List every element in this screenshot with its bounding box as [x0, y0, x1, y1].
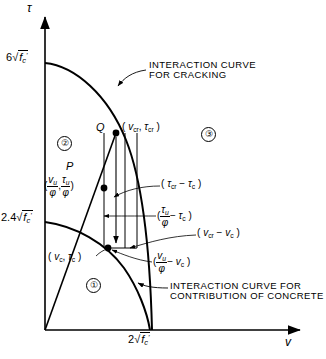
concrete-contribution-curve	[45, 222, 150, 330]
leader-dim-v-cr	[130, 235, 196, 248]
region-3-label: ③	[201, 127, 216, 142]
loading-ray	[45, 133, 116, 330]
point-q-label: Q	[96, 122, 105, 134]
dim-label-v-cr-minus-v-c: ( vcr − vc )	[197, 228, 240, 239]
frac-tauu-phi: τu φ	[160, 204, 170, 229]
point-c-coord: ( vc, τc )	[48, 252, 81, 263]
y-tick-mid-coeff: 2.4	[1, 211, 16, 223]
dim-label-tau-cr-minus-tau-c: ( τcr − τc )	[161, 179, 201, 190]
point-p-label: P	[66, 161, 73, 173]
y-tick-mid-radicand: fc'	[22, 210, 32, 223]
point-q-marker	[113, 130, 120, 137]
leader-cracking	[118, 70, 146, 86]
caption-cracking: INTERACTION CURVE FOR CRACKING	[149, 60, 256, 80]
x-tick: 2√fc'	[128, 334, 150, 347]
x-axis-label: v	[285, 336, 291, 349]
y-tick-top-radicand: fc'	[18, 50, 28, 63]
point-p-marker	[101, 185, 108, 192]
x-tick-radicand: fc'	[140, 332, 150, 345]
interaction-diagram: τ v 6√fc' 2.4√fc' 2√fc' INTERACTION CURV…	[0, 0, 326, 359]
caption-concrete-line2: CONTRIBUTION OF CONCRETE	[170, 291, 324, 301]
caption-concrete: INTERACTION CURVE FOR CONTRIBUTION OF CO…	[170, 281, 324, 301]
point-p-coord: ( vu φ , τu φ )	[44, 174, 74, 199]
frac-vu-phi: vu φ	[47, 174, 58, 199]
frac-vu-phi: vu φ	[156, 250, 167, 275]
region-1-label: ①	[86, 278, 101, 293]
leader-concrete	[138, 283, 168, 288]
caption-cracking-line2: FOR CRACKING	[149, 70, 256, 80]
region-2-label: ②	[57, 136, 72, 151]
dim-label-tau-u-over-phi-minus-tau-c: ( τu φ − τc )	[157, 204, 192, 229]
frac-tauu-phi: τu φ	[61, 174, 71, 199]
point-c-marker	[105, 245, 112, 252]
region-1-glyph: ①	[86, 278, 101, 293]
y-tick-mid: 2.4√fc'	[1, 212, 33, 225]
region-3-glyph: ③	[201, 127, 216, 142]
point-q-coord: ( vcr, τcr )	[122, 122, 160, 133]
y-axis-label: τ	[27, 2, 32, 15]
dim-label-v-u-over-phi-minus-v-c: ( vu φ − vc )	[153, 250, 190, 275]
y-tick-top: 6√fc'	[6, 52, 28, 65]
region-2-glyph: ②	[57, 136, 72, 151]
